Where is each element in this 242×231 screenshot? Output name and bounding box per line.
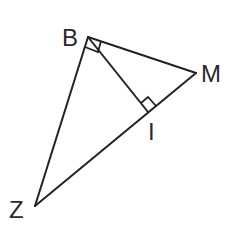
label-b: B <box>62 24 78 51</box>
segment-bz <box>35 37 88 206</box>
label-i: I <box>148 118 155 145</box>
geometry-diagram: B M I Z <box>0 0 242 231</box>
segment-zm <box>35 73 196 206</box>
segment-bm <box>88 37 196 73</box>
segment-bi <box>88 37 148 112</box>
label-m: M <box>201 60 221 87</box>
label-z: Z <box>9 196 24 223</box>
